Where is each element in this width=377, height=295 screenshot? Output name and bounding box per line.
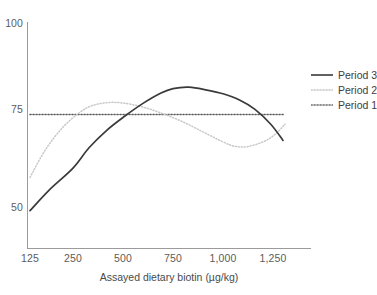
x-tick-label-1250: 1,250 (253, 252, 293, 264)
legend-label-period-2: Period 2 (338, 84, 377, 96)
x-axis-title: Assayed dietary biotin (µg/kg) (27, 271, 311, 283)
legend-label-period-3: Period 3 (338, 69, 377, 81)
series-line-period-2 (30, 102, 285, 177)
y-tick-label-100: 100 (0, 17, 23, 29)
y-tick-label-50: 50 (0, 201, 23, 213)
y-tick-label-75: 75 (0, 103, 23, 115)
chart-axes (27, 22, 311, 249)
x-tick-label-750: 750 (157, 252, 189, 264)
legend-swatch-solid-icon (311, 70, 333, 80)
chart-container: 100 75 50 125 250 500 750 1,000 1,250 As… (0, 0, 377, 295)
legend-item-period-2[interactable]: Period 2 (311, 82, 377, 97)
chart-legend: Period 3 Period 2 Period 1 (311, 67, 377, 112)
x-tick-label-125: 125 (14, 252, 46, 264)
legend-swatch-dotted-dark-icon (311, 100, 333, 110)
legend-item-period-3[interactable]: Period 3 (311, 67, 377, 82)
x-tick-label-500: 500 (107, 252, 139, 264)
chart-series-group (30, 87, 285, 211)
legend-label-period-1: Period 1 (338, 99, 377, 111)
legend-swatch-dotted-light-icon (311, 85, 333, 95)
x-tick-label-1000: 1,000 (203, 252, 243, 264)
legend-item-period-1[interactable]: Period 1 (311, 97, 377, 112)
x-tick-label-250: 250 (57, 252, 89, 264)
chart-plot-area (0, 0, 377, 295)
series-line-period-3 (30, 87, 283, 211)
